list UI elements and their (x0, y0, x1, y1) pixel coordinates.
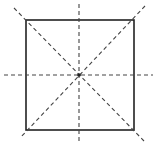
center-point (77, 73, 81, 77)
square-symmetry-diagram (0, 0, 155, 145)
diagonal-symmetry-line-up (20, 6, 145, 138)
